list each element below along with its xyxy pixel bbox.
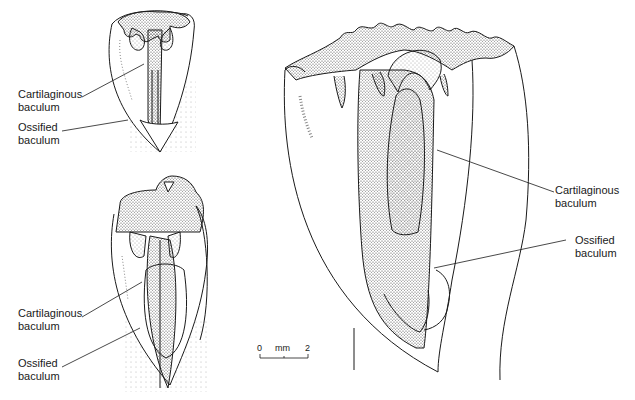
scale-bar [260,354,308,358]
label-right-ossified: Ossified baculum [575,234,617,260]
label-line: Ossified [575,234,617,247]
label-line: baculum [555,197,619,210]
label-line: Cartilaginous [555,184,619,197]
panel-top-left-drawing [109,11,196,152]
scale-start: 0 [257,343,262,353]
scale-end: 2 [305,343,310,353]
panel-right-drawing [284,23,528,380]
label-line: Ossified [18,357,60,370]
label-top-left-ossified: Ossified baculum [18,121,60,147]
label-line: baculum [18,370,60,383]
label-line: baculum [18,101,82,114]
label-line: baculum [18,134,60,147]
label-line: baculum [575,247,617,260]
label-top-left-cartilaginous: Cartilaginous baculum [18,88,82,114]
anatomical-illustration [0,0,635,400]
panel-bottom-left-drawing [111,176,210,392]
scale-unit: mm [275,343,290,353]
label-line: Ossified [18,121,60,134]
label-bottom-left-ossified: Ossified baculum [18,357,60,383]
label-line: baculum [18,320,82,333]
label-right-cartilaginous: Cartilaginous baculum [555,184,619,210]
leader-lines-right [434,150,566,268]
label-line: Cartilaginous [18,307,82,320]
label-bottom-left-cartilaginous: Cartilaginous baculum [18,307,82,333]
label-line: Cartilaginous [18,88,82,101]
